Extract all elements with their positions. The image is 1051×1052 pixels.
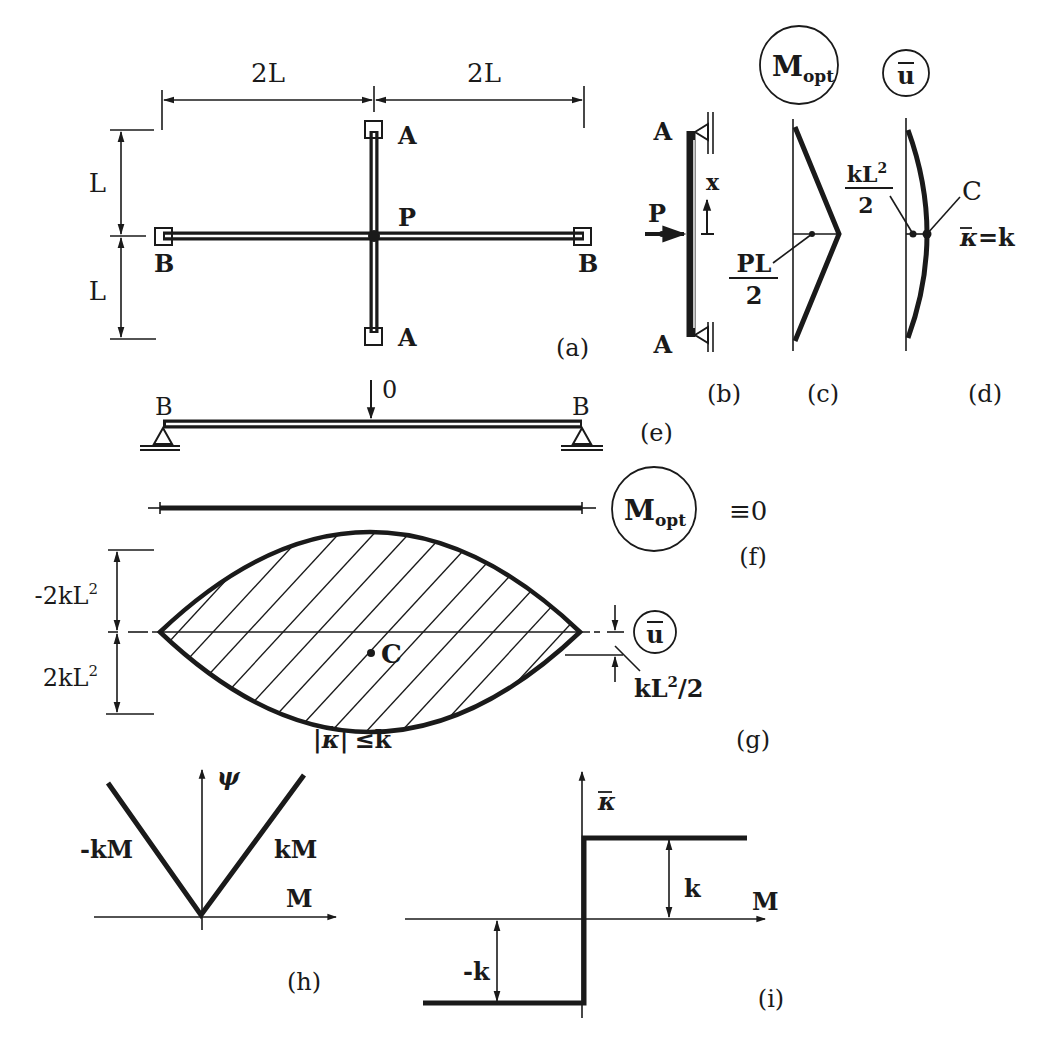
label-A-bottom: A — [652, 330, 672, 359]
dim-label-L-top: L — [89, 168, 106, 198]
leader-line — [890, 196, 913, 234]
value-kL2-den: 2 — [858, 192, 873, 218]
pin-support-left — [154, 428, 172, 444]
label-B-right: B — [578, 249, 598, 278]
load-dot — [659, 231, 665, 237]
title-M: Mopt — [772, 50, 834, 86]
label-P: P — [648, 199, 666, 228]
panel-label-e: (e) — [640, 419, 673, 447]
leader-line — [615, 646, 640, 671]
label-C: C — [962, 176, 982, 206]
value-PL-num: PL — [737, 249, 772, 278]
diagram-canvas: 2L 2L L L A A B B P (a) — [0, 0, 1051, 1052]
label-B-right: B — [572, 393, 590, 421]
support-A-top — [695, 124, 708, 140]
label-A-top: A — [652, 117, 672, 146]
level-label-k: k — [684, 874, 702, 903]
dim-label-L-bottom: L — [89, 276, 106, 306]
dim-label-2L-left: 2L — [251, 58, 285, 88]
title-u: u — [646, 620, 663, 649]
level-label-minus-k: -k — [463, 957, 491, 986]
hatch-region — [0, 500, 720, 760]
curvature-eq: κ=k — [959, 223, 1016, 252]
label-load-zero: 0 — [382, 376, 397, 404]
identity-zero: ≡0 — [729, 496, 767, 526]
label-P: P — [398, 203, 416, 232]
label-C: C — [381, 639, 402, 669]
panel-i: κ M k -k (i) — [405, 772, 784, 1018]
panel-e: 0 B B (e) — [140, 376, 673, 450]
label-B-left: B — [154, 249, 174, 278]
title-M: Mopt — [624, 494, 686, 530]
title-u: u — [897, 61, 914, 90]
panel-h: ψ M -kM kM (h) — [80, 762, 336, 996]
y-axis-label-psi: ψ — [217, 762, 241, 791]
panel-label-f: (f) — [739, 543, 767, 571]
panel-g: -2kL2 2kL2 — [0, 500, 770, 760]
panel-b: A A P x (b) — [645, 112, 741, 408]
dim-label-bottom: 2kL2 — [43, 662, 98, 692]
support-A-bottom — [695, 327, 708, 343]
label-x: x — [706, 169, 720, 195]
value-kL2-num: kL2 — [847, 160, 887, 187]
panel-label-h: (h) — [287, 968, 321, 996]
panel-label-c: (c) — [807, 380, 839, 408]
panel-c: Mopt PL 2 (c) — [729, 26, 839, 408]
leader-line — [927, 197, 960, 234]
load-point-P — [368, 230, 380, 242]
panel-label-i: (i) — [758, 985, 784, 1013]
dim-label-top: -2kL2 — [35, 580, 98, 610]
panel-label-g: (g) — [736, 726, 770, 754]
value-PL-den: 2 — [746, 281, 763, 310]
panel-label-b: (b) — [707, 380, 741, 408]
panel-d: u kL2 2 C κ=k (d) — [845, 50, 1016, 408]
point-C — [367, 649, 375, 657]
panel-a: 2L 2L L L A A B B P (a) — [89, 58, 599, 362]
branch-label-positive: kM — [274, 835, 317, 864]
offset-label: kL2/2 — [634, 673, 703, 703]
branch-label-negative: -kM — [80, 835, 133, 864]
x-axis-label-M: M — [286, 884, 313, 913]
dim-label-2L-right: 2L — [467, 58, 501, 88]
panel-label-a: (a) — [556, 334, 589, 362]
label-A-top: A — [397, 121, 417, 150]
y-axis-label-kappa: κ — [597, 787, 616, 816]
panel-f: Mopt ≡0 (f) — [148, 467, 767, 571]
x-axis-label-M: M — [752, 887, 779, 916]
panel-label-d: (d) — [968, 380, 1002, 408]
pin-support-right — [573, 428, 591, 444]
label-B-left: B — [155, 393, 173, 421]
label-A-bottom: A — [397, 323, 417, 352]
